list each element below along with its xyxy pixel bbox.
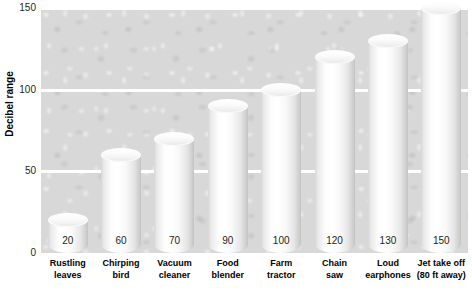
bar-cylinder-body: 70 [154,139,194,253]
bar-cylinder-top-ellipse [208,99,248,113]
bar-2: 70 [154,8,194,253]
bar-3: 90 [208,8,248,253]
bar-cylinder-body: 150 [421,8,461,253]
bar-4: 100 [261,8,301,253]
bar-value-label: 130 [368,235,408,246]
bar-cylinder-top-ellipse [315,50,355,64]
x-axis-category-labels: RustlingleavesChirpingbirdVacuumcleanerF… [41,258,468,293]
bar-value-label: 100 [261,235,301,246]
bar-cylinder-top-ellipse [154,132,194,146]
bar-0: 20 [48,8,88,253]
bar-6: 130 [368,8,408,253]
bar-cylinder-body: 20 [48,220,88,253]
bar-cylinder-top-ellipse [368,34,408,48]
y-tick-label-100: 100 [10,85,36,95]
bar-cylinder-body: 130 [368,41,408,253]
bar-cylinder-top-ellipse [261,83,301,97]
bar-value-label: 70 [154,235,194,246]
bar-1: 60 [101,8,141,253]
bar-cylinder-body: 120 [315,57,355,253]
bar-cylinder-top-ellipse [421,1,461,15]
category-label-7: Jet take off(80 ft away) [409,258,472,281]
bar-cylinder-top-ellipse [48,213,88,227]
y-tick-label-0: 0 [10,248,36,258]
bar-value-label: 150 [421,235,461,246]
decibel-range-bar-chart: Decibel range 050100150 2060709010012013… [0,0,472,293]
bar-value-label: 90 [208,235,248,246]
bar-value-label: 120 [315,235,355,246]
bar-cylinder-body: 60 [101,155,141,253]
bar-cylinder-top-ellipse [101,148,141,162]
y-tick-label-150: 150 [10,3,36,13]
bar-7: 150 [421,8,461,253]
y-axis-tick-labels: 050100150 [8,0,36,293]
bar-value-label: 60 [101,235,141,246]
bar-value-label: 20 [48,235,88,246]
bar-cylinder-body: 100 [261,90,301,253]
y-tick-label-50: 50 [10,166,36,176]
bar-cylinder-body: 90 [208,106,248,253]
bar-5: 120 [315,8,355,253]
bars-layer: 20607090100120130150 [41,8,468,253]
